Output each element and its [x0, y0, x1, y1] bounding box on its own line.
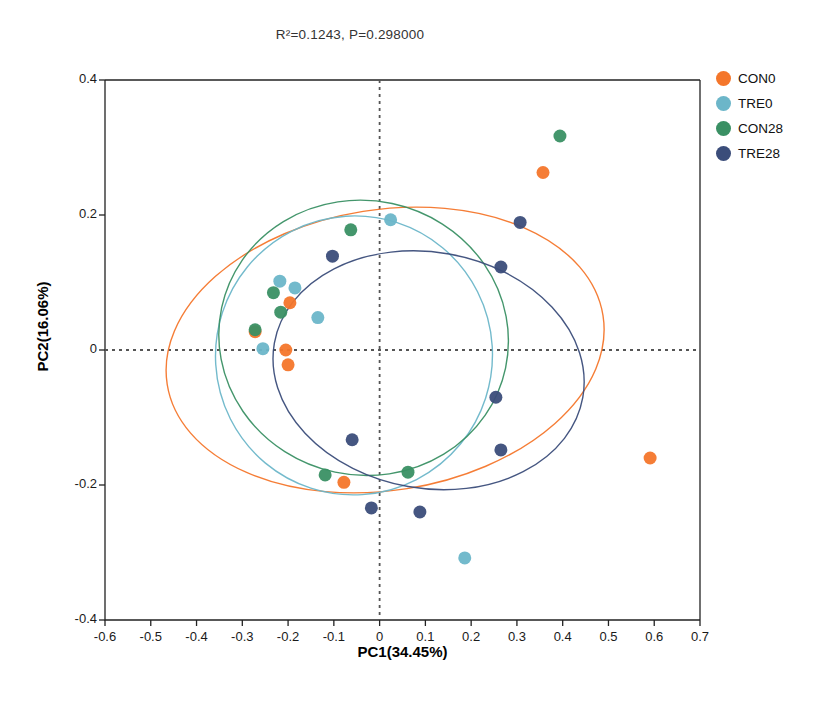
- x-tick-label: -0.2: [265, 629, 311, 644]
- legend-swatch-icon: [716, 71, 731, 86]
- data-point: [489, 391, 502, 404]
- data-point: [311, 311, 324, 324]
- x-tick-label: -0.4: [174, 629, 220, 644]
- data-points: [249, 130, 657, 565]
- x-tick-label: 0: [357, 629, 403, 644]
- y-tick-label: 0.4: [51, 71, 97, 86]
- chart-page: R²=0.1243, P=0.298000 PC1(34.45%) PC2(16…: [0, 0, 818, 701]
- data-point: [249, 323, 262, 336]
- x-tick-label: 0.7: [677, 629, 723, 644]
- legend-swatch-icon: [716, 146, 731, 161]
- legend-item-tre0[interactable]: TRE0: [716, 91, 812, 116]
- scatter-plot: [0, 0, 818, 701]
- axis-frame: [99, 80, 700, 626]
- data-point: [644, 452, 657, 465]
- legend-item-label: TRE28: [738, 146, 780, 161]
- y-tick-label: 0: [51, 341, 97, 356]
- x-tick-label: 0.4: [540, 629, 586, 644]
- data-point: [494, 443, 507, 456]
- data-point: [267, 286, 280, 299]
- data-point: [256, 342, 269, 355]
- data-point: [553, 130, 566, 143]
- data-point: [413, 506, 426, 519]
- reference-lines: [105, 80, 700, 620]
- data-point: [274, 306, 287, 319]
- x-tick-label: -0.1: [311, 629, 357, 644]
- data-point: [344, 223, 357, 236]
- data-point: [514, 216, 527, 229]
- data-point: [319, 468, 332, 481]
- x-tick-label: 0.1: [402, 629, 448, 644]
- legend-item-label: TRE0: [738, 96, 773, 111]
- confidence-ellipses: [145, 173, 625, 531]
- legend-item-label: CON28: [738, 121, 783, 136]
- data-point: [273, 275, 286, 288]
- data-point: [494, 260, 507, 273]
- x-tick-label: -0.3: [219, 629, 265, 644]
- x-tick-label: -0.5: [128, 629, 174, 644]
- y-axis-title: PC2(16.06%): [34, 197, 51, 457]
- x-tick-label: 0.6: [631, 629, 677, 644]
- legend-swatch-icon: [716, 96, 731, 111]
- data-point: [279, 344, 292, 357]
- data-point: [458, 551, 471, 564]
- data-point: [326, 250, 339, 263]
- legend-item-con0[interactable]: CON0: [716, 66, 812, 91]
- y-tick-label: -0.4: [51, 611, 97, 626]
- data-point: [384, 213, 397, 226]
- y-tick-label: 0.2: [51, 206, 97, 221]
- legend: CON0TRE0CON28TRE28: [716, 66, 812, 166]
- data-point: [337, 476, 350, 489]
- x-tick-label: -0.6: [82, 629, 128, 644]
- x-tick-label: 0.2: [448, 629, 494, 644]
- y-tick-label: -0.2: [51, 476, 97, 491]
- legend-item-label: CON0: [738, 71, 776, 86]
- data-point: [346, 433, 359, 446]
- x-tick-label: 0.5: [585, 629, 631, 644]
- data-point: [288, 281, 301, 294]
- data-point: [537, 166, 550, 179]
- x-axis-title: PC1(34.45%): [105, 643, 700, 660]
- data-point: [365, 501, 378, 514]
- data-point: [283, 296, 296, 309]
- legend-item-tre28[interactable]: TRE28: [716, 141, 812, 166]
- legend-swatch-icon: [716, 121, 731, 136]
- legend-item-con28[interactable]: CON28: [716, 116, 812, 141]
- data-point: [282, 358, 295, 371]
- data-point: [401, 466, 414, 479]
- x-tick-label: 0.3: [494, 629, 540, 644]
